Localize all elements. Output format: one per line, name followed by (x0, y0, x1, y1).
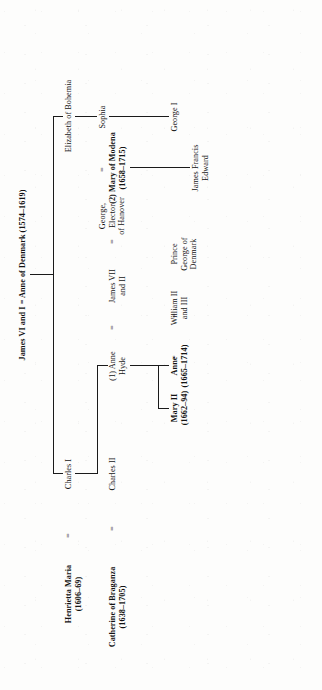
node-mary-of-modena: (2) Mary of Modena (1658–1715) (108, 102, 127, 234)
node-sophia: Sophia (98, 81, 108, 153)
node-elizabeth-of-bohemia: Elizabeth of Bohemia (64, 45, 74, 187)
node-mary-modena-line-2: (1658–1715) (118, 102, 128, 234)
node-james-vii-and-ii: James VII and II (108, 248, 127, 324)
node-william-line-1: William II (170, 270, 180, 346)
node-anne-hyde-line-2: Hyde (118, 328, 128, 404)
node-mary-ii-line-1: Mary II (170, 370, 180, 446)
edge-root-to-elizabeth (53, 116, 63, 117)
node-catherine-line-2: (1638–1705) (118, 534, 128, 680)
marriage-symbol-james7-marymodena: = (108, 239, 118, 244)
edge-root-stem (30, 274, 53, 275)
edge-charles1-to-james7 (97, 365, 108, 366)
node-charles-i: Charles I (64, 434, 74, 514)
node-george-i: George I (170, 81, 180, 153)
edge-annehyde-to-anne (158, 365, 169, 366)
node-charles-ii-label: Charles II (108, 436, 118, 512)
node-james-francis-line-2: Edward (201, 116, 211, 220)
node-henrietta-maria: Henrietta Maria (1606–69) (64, 538, 83, 650)
node-james-francis-line-1: James Francis (191, 116, 201, 220)
node-mary-ii-line-2: (1662–94) (180, 370, 190, 446)
node-anne-hyde-line-1: (1) Anne (108, 328, 118, 404)
node-william-line-2: and III (180, 270, 190, 346)
node-george-elector-line-1: George, (98, 174, 108, 258)
edge-charles1-stem (75, 473, 97, 474)
node-catherine-line-1: Catherine of Braganza (108, 534, 118, 680)
node-root-line-1: James VI and I = Anne of Denmark (1574–1… (18, 145, 28, 405)
node-catherine-of-braganza: Catherine of Braganza (1638–1705) (108, 534, 127, 680)
node-root: James VI and I = Anne of Denmark (1574–1… (18, 145, 28, 405)
edge-annehyde-stem (130, 365, 158, 366)
edge-root-sibling-bar (53, 117, 54, 474)
node-mary-modena-line-1: (2) Mary of Modena (108, 102, 118, 234)
node-sophia-label: Sophia (98, 81, 108, 153)
marriage-symbol-catherine-charles2: = (108, 526, 118, 531)
node-prince-george-line-3: Denmark (189, 214, 199, 294)
node-james-francis-edward: James Francis Edward (191, 116, 210, 220)
edge-root-to-charles1 (53, 473, 63, 474)
marriage-symbol-george-sophia: = (98, 167, 108, 172)
node-william-ii-and-iii: William II and III (170, 270, 189, 346)
node-george-i-label: George I (170, 81, 180, 153)
edge-elizabeth-to-sophia (75, 116, 97, 117)
node-henrietta-line-2: (1606–69) (74, 538, 84, 650)
node-charles-i-label: Charles I (64, 434, 74, 514)
edge-annehyde-to-mary2 (158, 408, 169, 409)
node-henrietta-line-1: Henrietta Maria (64, 538, 74, 650)
family-tree-canvas: James VI and I = Anne of Denmark (1574–1… (0, 0, 322, 690)
edge-marymodena-to-jamesfrancis (130, 167, 190, 168)
node-mary-ii: Mary II (1662–94) (170, 370, 189, 446)
node-james7-line-1: James VII (108, 248, 118, 324)
marriage-symbol-annehyde-james7: = (108, 325, 118, 330)
node-charles-ii: Charles II (108, 436, 118, 512)
node-elizabeth-label: Elizabeth of Bohemia (64, 45, 74, 187)
node-james7-line-2: and II (118, 248, 128, 324)
edge-annehyde-sibling-bar (158, 366, 159, 409)
node-anne-hyde: (1) Anne Hyde (108, 328, 127, 404)
family-tree-viewport: James VI and I = Anne of Denmark (1574–1… (0, 0, 322, 690)
marriage-symbol-mary2-william: = (170, 355, 180, 360)
edge-charles1-sibling-bar (97, 366, 98, 474)
